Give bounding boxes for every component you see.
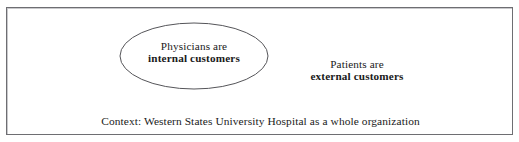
internal-customers-label: Physicians are internal customers <box>120 40 268 64</box>
external-customers-label: Patients are external customers <box>291 58 423 82</box>
diagram-canvas: Physicians are internal customers Patien… <box>0 0 519 142</box>
internal-customers-line2: internal customers <box>120 52 268 64</box>
diagram-frame: Physicians are internal customers Patien… <box>6 7 513 135</box>
context-caption: Context: Western States University Hospi… <box>8 115 513 127</box>
internal-customers-line1: Physicians are <box>120 40 268 52</box>
external-customers-line2: external customers <box>291 70 423 82</box>
external-customers-line1: Patients are <box>291 58 423 70</box>
